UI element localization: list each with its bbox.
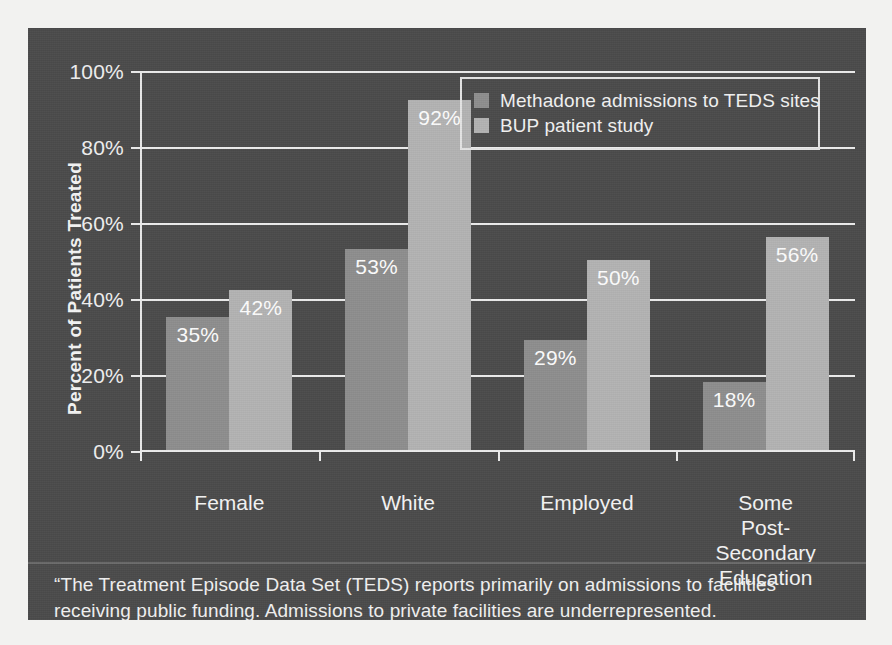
category-label-line: Some [676, 490, 855, 515]
x-axis-tick [676, 452, 678, 461]
y-axis-tick-label: 100% [69, 60, 124, 84]
category-label-line: Employed [498, 490, 677, 515]
bar: 18% [703, 382, 766, 450]
bar-value-label: 50% [587, 266, 650, 290]
bar: 92% [408, 100, 471, 450]
y-axis-tick-label: 40% [81, 288, 124, 312]
chart-legend: Methadone admissions to TEDS sites BUP p… [460, 77, 820, 150]
bar: 50% [587, 260, 650, 450]
x-axis-tick [319, 452, 321, 461]
bar: 53% [345, 249, 408, 450]
y-axis-tick [131, 223, 140, 225]
chart-panel: Percent of Patients Treated 0%20%40%60%8… [28, 28, 866, 620]
bar: 29% [524, 340, 587, 450]
y-axis-tick [131, 147, 140, 149]
bar-value-label: 42% [229, 296, 292, 320]
footnote-line-2: receiving public funding. Admissions to … [54, 598, 834, 620]
y-axis-tick [131, 375, 140, 377]
category-label-line: Female [140, 490, 319, 515]
bar: 42% [229, 290, 292, 450]
y-axis-tick [131, 451, 140, 453]
category-label: White [319, 490, 498, 515]
y-axis-tick-label: 0% [93, 440, 124, 464]
x-axis-tick [853, 452, 855, 461]
legend-item: BUP patient study [474, 113, 806, 138]
category-label: Employed [498, 490, 677, 515]
legend-item-label: BUP patient study [500, 115, 653, 137]
legend-item-label: Methadone admissions to TEDS sites [500, 90, 820, 112]
bar: 56% [766, 237, 829, 450]
bar-value-label: 56% [766, 243, 829, 267]
legend-swatch-icon [474, 118, 489, 133]
y-axis-tick [131, 299, 140, 301]
y-axis-tick-label: 80% [81, 136, 124, 160]
bar: 35% [166, 317, 229, 450]
category-label: Female [140, 490, 319, 515]
x-axis-tick [498, 452, 500, 461]
legend-swatch-icon [474, 93, 489, 108]
bar-value-label: 35% [166, 323, 229, 347]
category-label-line: Post- [676, 515, 855, 540]
y-axis-tick-label: 60% [81, 212, 124, 236]
bar-value-label: 18% [703, 388, 766, 412]
x-axis-tick [140, 452, 142, 461]
y-axis-tick [131, 71, 140, 73]
bar-value-label: 29% [524, 346, 587, 370]
y-axis-tick-label: 20% [81, 364, 124, 388]
screenshot-root: Percent of Patients Treated 0%20%40%60%8… [0, 0, 892, 645]
category-label-line: White [319, 490, 498, 515]
legend-item: Methadone admissions to TEDS sites [474, 88, 806, 113]
footnote-text: “The Treatment Episode Data Set (TEDS) r… [54, 572, 834, 620]
bar-value-label: 53% [345, 255, 408, 279]
footnote-divider [28, 562, 866, 564]
footnote-line-1: “The Treatment Episode Data Set (TEDS) r… [54, 572, 834, 598]
